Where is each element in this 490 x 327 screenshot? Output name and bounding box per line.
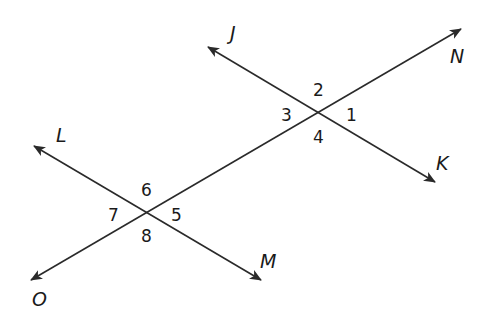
point-label-l: L (56, 124, 67, 146)
point-label-k: K (436, 152, 450, 174)
angle-label-4: 4 (313, 127, 324, 147)
point-label-j: J (226, 22, 236, 44)
transversal-arrow (31, 29, 461, 280)
geometry-diagram: JNKLMO 12345678 (0, 0, 490, 327)
point-label-m: M (260, 250, 276, 272)
lines-layer (31, 29, 461, 280)
angle-label-3: 3 (281, 105, 292, 125)
angle-label-5: 5 (171, 205, 182, 225)
angle-label-2: 2 (313, 80, 324, 100)
angle-label-6: 6 (141, 180, 152, 200)
angle-label-8: 8 (141, 226, 152, 246)
point-label-n: N (450, 45, 464, 67)
line-JK-arrow (208, 47, 435, 182)
angle-label-7: 7 (108, 205, 119, 225)
angle-label-1: 1 (346, 105, 357, 125)
point-label-o: O (32, 288, 47, 310)
